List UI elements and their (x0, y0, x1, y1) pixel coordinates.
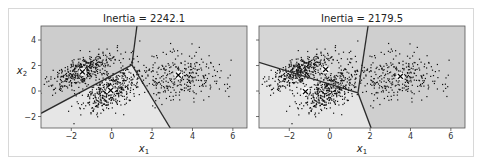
right-y-ticks (256, 40, 259, 117)
right-plot-panel: −20246 Inertia = 2179.5 x1 (256, 13, 465, 156)
left-x-ticks: −20246 (65, 128, 235, 141)
left-y-ticks: −2024 (24, 36, 41, 122)
x-tick-label: 2 (150, 132, 155, 141)
right-plot-title: Inertia = 2179.5 (321, 13, 403, 24)
x-tick-label: 4 (190, 132, 195, 141)
left-plot-title: Inertia = 2242.1 (103, 13, 185, 24)
kmeans-comparison-figure: −20246 −2024 Inertia = 2242.1 x1 x2 −202… (0, 0, 481, 166)
right-x-axis-label: x1 (356, 143, 367, 156)
x-tick-label: 0 (327, 132, 332, 141)
region-right (358, 26, 465, 128)
x-tick-label: 6 (230, 132, 235, 141)
left-x-axis-label: x1 (138, 143, 149, 156)
left-plot-panel: −20246 −2024 Inertia = 2242.1 x1 x2 (16, 13, 247, 156)
y-tick-label: 0 (31, 87, 36, 96)
x-tick-label: 6 (448, 132, 453, 141)
y-tick-label: −2 (24, 113, 36, 122)
y-tick-label: 2 (31, 62, 36, 71)
y-tick-label: 4 (31, 36, 36, 45)
x-tick-label: 2 (368, 132, 373, 141)
x-tick-label: 0 (109, 132, 114, 141)
left-y-axis-label: x2 (16, 65, 27, 78)
x-tick-label: 4 (408, 132, 413, 141)
x-tick-label: −2 (283, 132, 295, 141)
right-x-ticks: −20246 (283, 128, 453, 141)
x-tick-label: −2 (65, 132, 77, 141)
